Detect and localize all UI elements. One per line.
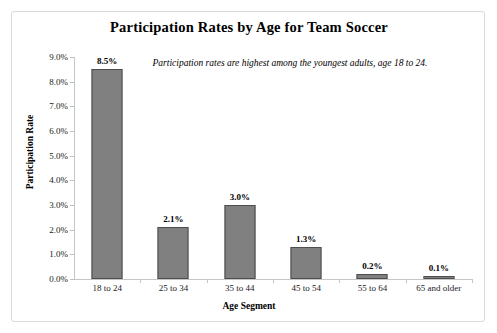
y-axis-tick-label: 1.0% bbox=[49, 249, 68, 259]
bar-group: 2.1%25 to 34 bbox=[140, 57, 206, 279]
x-axis-category-label: 18 to 24 bbox=[92, 283, 122, 293]
y-axis-tick-label: 2.0% bbox=[49, 225, 68, 235]
x-axis-category-label: 55 to 64 bbox=[358, 283, 388, 293]
bar-value-label: 3.0% bbox=[230, 192, 250, 202]
x-axis-tick-mark bbox=[406, 279, 407, 283]
y-axis-tick-label: 7.0% bbox=[49, 101, 68, 111]
y-axis-tick-label: 3.0% bbox=[49, 200, 68, 210]
bar[interactable] bbox=[224, 205, 255, 279]
x-axis-title: Age Segment bbox=[12, 301, 486, 311]
y-axis-tick-label: 9.0% bbox=[49, 52, 68, 62]
x-axis-tick-mark bbox=[140, 279, 141, 283]
bar[interactable] bbox=[357, 274, 388, 279]
bar[interactable] bbox=[423, 276, 454, 279]
bar-value-label: 1.3% bbox=[296, 234, 316, 244]
chart-title: Participation Rates by Age for Team Socc… bbox=[12, 19, 486, 36]
bar-group: 3.0%35 to 44 bbox=[207, 57, 273, 279]
bar[interactable] bbox=[92, 69, 123, 279]
y-axis-tick-label: 5.0% bbox=[49, 151, 68, 161]
bar-value-label: 0.2% bbox=[362, 261, 382, 271]
x-axis-category-label: 45 to 54 bbox=[291, 283, 321, 293]
y-axis-title: Participation Rate bbox=[25, 82, 35, 222]
bar-group: 0.2%55 to 64 bbox=[339, 57, 405, 279]
y-axis-tick-label: 8.0% bbox=[49, 77, 68, 87]
y-axis-tick-label: 6.0% bbox=[49, 126, 68, 136]
x-axis-tick-mark bbox=[207, 279, 208, 283]
y-axis-tick-label: 4.0% bbox=[49, 175, 68, 185]
plot-area: 0.0%1.0%2.0%3.0%4.0%5.0%6.0%7.0%8.0%9.0%… bbox=[74, 57, 472, 279]
chart-frame: Participation Rates by Age for Team Socc… bbox=[11, 11, 485, 322]
y-axis-tick-mark bbox=[70, 279, 74, 280]
x-axis-tick-mark bbox=[472, 279, 473, 283]
y-axis-tick-label: 0.0% bbox=[49, 274, 68, 284]
bar-value-label: 2.1% bbox=[163, 214, 183, 224]
bar-group: 0.1%65 and older bbox=[406, 57, 472, 279]
bar-group: 8.5%18 to 24 bbox=[74, 57, 140, 279]
bar-value-label: 8.5% bbox=[97, 56, 117, 66]
bar[interactable] bbox=[158, 227, 189, 279]
x-axis-tick-mark bbox=[339, 279, 340, 283]
x-axis-category-label: 25 to 34 bbox=[159, 283, 189, 293]
x-axis-category-label: 65 and older bbox=[416, 283, 461, 293]
x-axis-tick-mark bbox=[273, 279, 274, 283]
bar[interactable] bbox=[291, 247, 322, 279]
bar-value-label: 0.1% bbox=[429, 263, 449, 273]
bar-group: 1.3%45 to 54 bbox=[273, 57, 339, 279]
x-axis-category-label: 35 to 44 bbox=[225, 283, 255, 293]
